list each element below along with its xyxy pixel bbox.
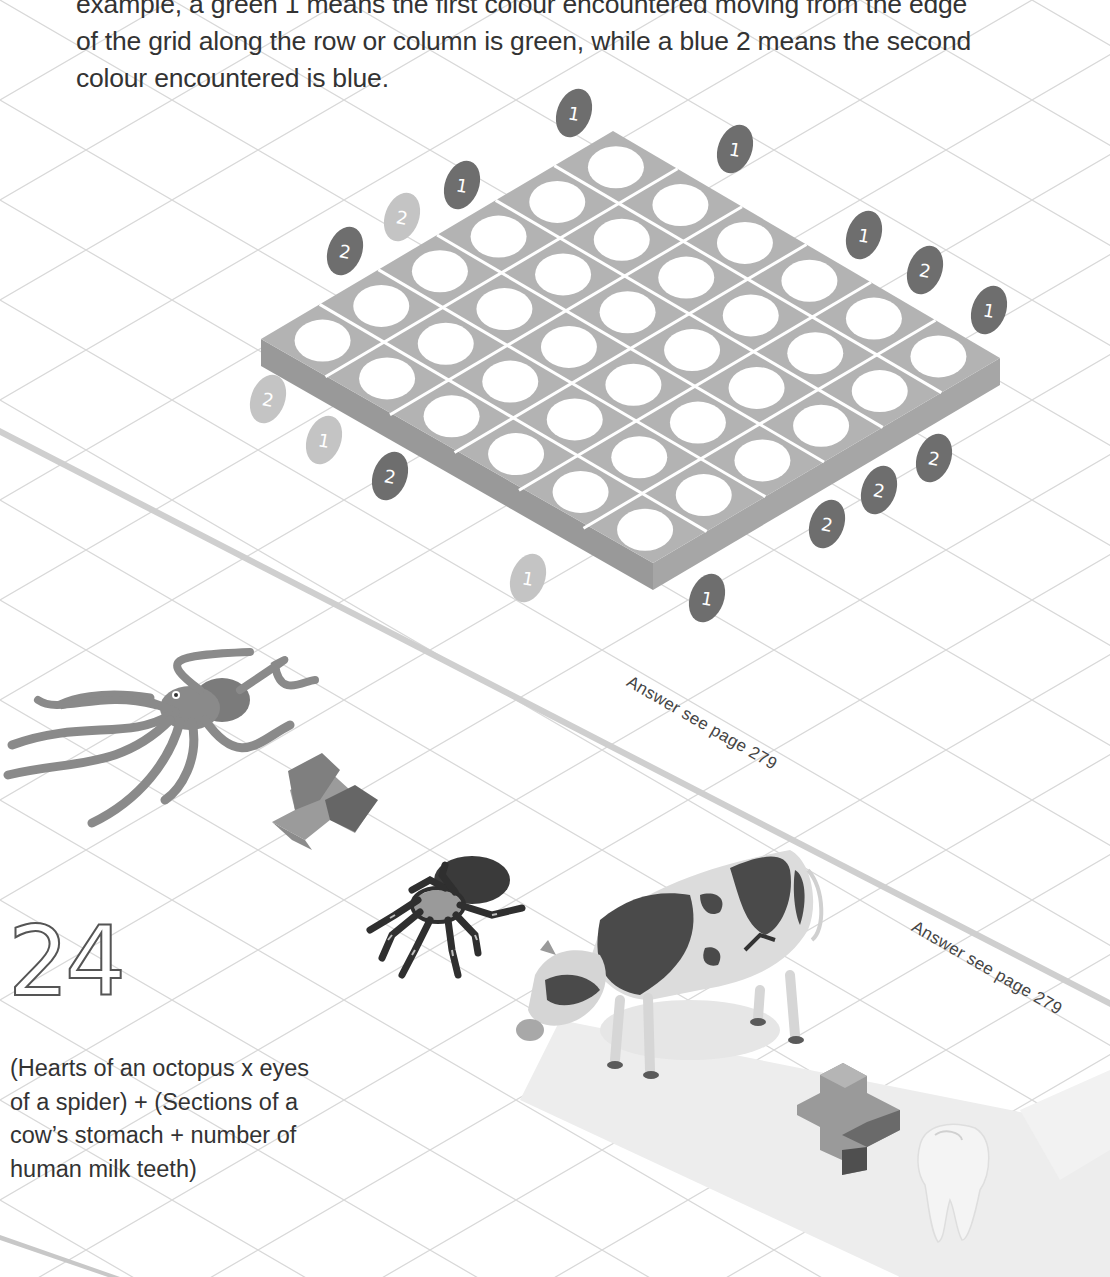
puzzle-number: 24 (8, 914, 122, 1010)
grid-cell[interactable] (594, 219, 650, 261)
grid-cell[interactable] (781, 260, 837, 302)
grid-cell[interactable] (676, 474, 732, 516)
grid-cell[interactable] (418, 323, 474, 365)
instructions-line-1: example, a green 1 means the first colou… (76, 0, 1076, 23)
grid-cell[interactable] (600, 291, 656, 333)
puzzle-question-line-1: (Hearts of an octopus x eyes (10, 1052, 370, 1086)
grid-cell[interactable] (359, 357, 415, 399)
grid-cell[interactable] (717, 222, 773, 264)
grid-cell[interactable] (670, 402, 726, 444)
grid-cell[interactable] (588, 146, 644, 188)
grid-cell[interactable] (295, 320, 351, 362)
grid-cell[interactable] (664, 329, 720, 371)
puzzle-question-line-2: of a spider) + (Sections of a (10, 1086, 370, 1120)
grid-cell[interactable] (652, 184, 708, 226)
grid-cell[interactable] (723, 294, 779, 336)
grid-cell[interactable] (846, 298, 902, 340)
grid-cell[interactable] (482, 361, 538, 403)
grid-cell[interactable] (535, 253, 591, 295)
grid-cell[interactable] (547, 398, 603, 440)
grid-cell[interactable] (605, 364, 661, 406)
grid-cell[interactable] (910, 335, 966, 377)
grid-cell[interactable] (729, 367, 785, 409)
instructions-line-2: of the grid along the row or column is g… (76, 23, 1076, 60)
instructions-line-3: colour encountered is blue. (76, 60, 1076, 97)
grid-cell[interactable] (488, 433, 544, 475)
grid-cell[interactable] (611, 436, 667, 478)
grid-cell[interactable] (553, 471, 609, 513)
grid-cell[interactable] (424, 395, 480, 437)
grid-cell[interactable] (658, 257, 714, 299)
puzzle-question-line-4: human milk teeth) (10, 1153, 370, 1187)
puzzle-question-line-3: cow’s stomach + number of (10, 1119, 370, 1153)
grid-cell[interactable] (793, 405, 849, 447)
instructions-text: example, a green 1 means the first colou… (76, 0, 1076, 97)
puzzle-question: (Hearts of an octopus x eyes of a spider… (10, 1052, 370, 1186)
grid-cell[interactable] (541, 326, 597, 368)
grid-cell[interactable] (471, 216, 527, 258)
grid-cell[interactable] (787, 332, 843, 374)
grid-cell[interactable] (617, 509, 673, 551)
grid-cell[interactable] (476, 288, 532, 330)
grid-cell[interactable] (412, 250, 468, 292)
grid-cell[interactable] (353, 285, 409, 327)
grid-cell[interactable] (734, 439, 790, 481)
grid-cell[interactable] (852, 370, 908, 412)
grid-cell[interactable] (529, 181, 585, 223)
